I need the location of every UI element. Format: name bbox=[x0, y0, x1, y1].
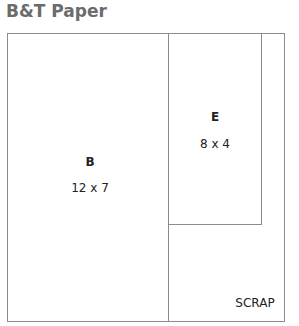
piece-e-dims: 8 x 4 bbox=[185, 137, 245, 151]
piece-e-name: E bbox=[205, 110, 225, 124]
piece-e bbox=[168, 33, 262, 225]
scrap-label: SCRAP bbox=[230, 296, 280, 310]
piece-b-name: B bbox=[80, 155, 100, 169]
piece-b bbox=[7, 33, 169, 322]
piece-b-dims: 12 x 7 bbox=[60, 181, 120, 195]
diagram-title: B&T Paper bbox=[6, 1, 107, 21]
